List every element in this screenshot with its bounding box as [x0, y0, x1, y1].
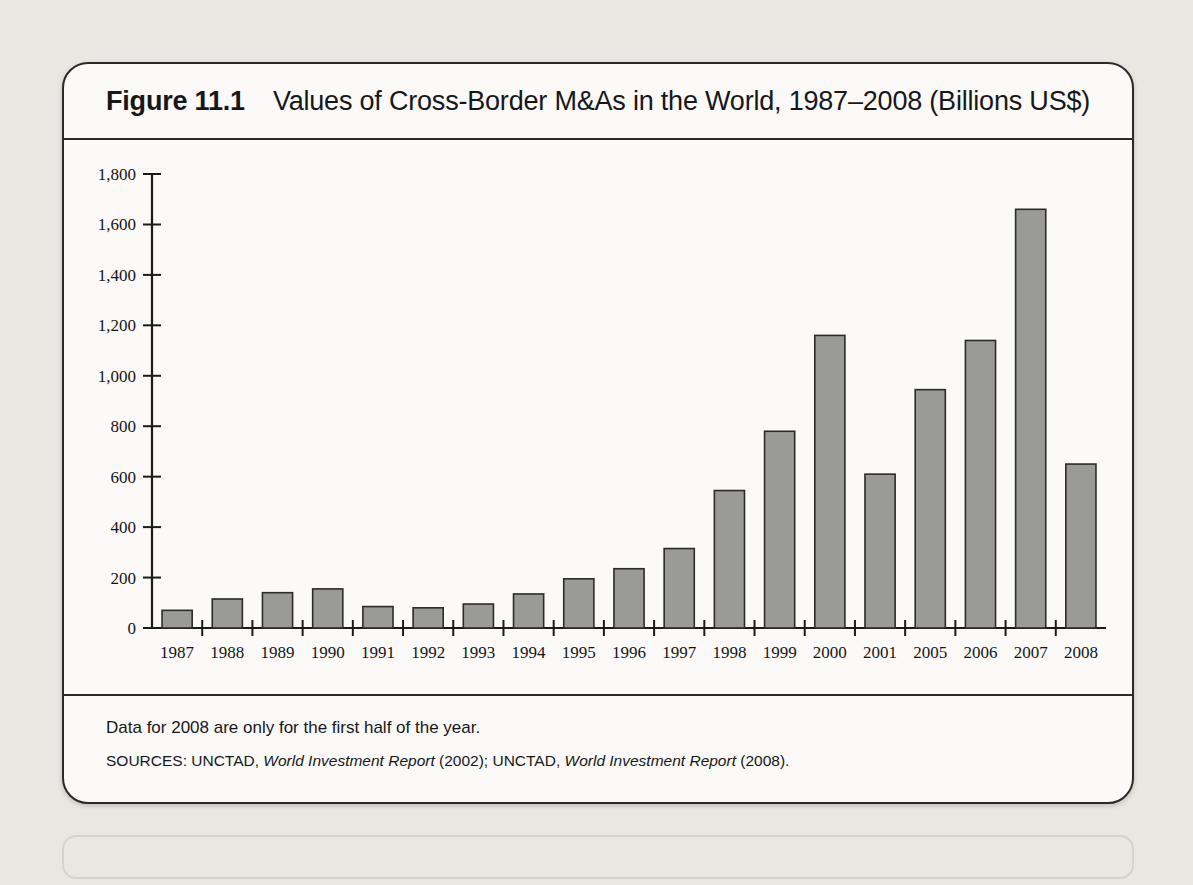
x-axis-tick-label: 2006 [963, 643, 997, 662]
sources-mid: (2002); UNCTAD, [435, 752, 565, 769]
x-axis-tick-label: 2008 [1064, 643, 1098, 662]
y-axis-tick-label: 1,800 [98, 165, 136, 184]
bar-1991[interactable] [363, 607, 393, 628]
bar-1992[interactable] [413, 608, 443, 628]
sources-italic-1: World Investment Report [263, 752, 434, 769]
chart-area: 02004006008001,0001,2001,4001,6001,80019… [64, 140, 1132, 694]
bar-2001[interactable] [865, 474, 895, 628]
x-axis-tick-label: 2000 [813, 643, 847, 662]
figure-number-label: Figure 11.1 [106, 86, 245, 117]
x-axis-tick-label: 1988 [210, 643, 244, 662]
figure-panel: Figure 11.1 Values of Cross-Border M&As … [62, 62, 1134, 804]
y-axis-tick-label: 400 [111, 518, 137, 537]
x-axis-tick-label: 1989 [261, 643, 295, 662]
x-axis-tick-label: 1998 [712, 643, 746, 662]
y-axis-tick-label: 800 [111, 417, 137, 436]
y-axis-tick-label: 0 [128, 619, 137, 638]
sources-italic-2: World Investment Report [565, 752, 736, 769]
bar-2007[interactable] [1016, 209, 1046, 628]
x-axis-tick-label: 1993 [461, 643, 495, 662]
x-axis-tick-label: 1991 [361, 643, 395, 662]
x-axis-tick-label: 1994 [512, 643, 547, 662]
figure-note: Data for 2008 are only for the first hal… [106, 718, 1090, 738]
bar-1988[interactable] [212, 599, 242, 628]
bar-1987[interactable] [162, 610, 192, 628]
y-axis-tick-label: 200 [111, 569, 137, 588]
x-axis-tick-label: 2007 [1014, 643, 1049, 662]
sources-suffix: (2008). [736, 752, 789, 769]
x-axis-tick-label: 1992 [411, 643, 445, 662]
bar-1996[interactable] [614, 569, 644, 628]
x-axis-tick-label: 1995 [562, 643, 596, 662]
x-axis-tick-label: 1990 [311, 643, 345, 662]
bar-2005[interactable] [915, 390, 945, 628]
bar-1998[interactable] [714, 491, 744, 628]
bar-2006[interactable] [965, 340, 995, 628]
sources-prefix: SOURCES: UNCTAD, [106, 752, 263, 769]
page-bottom-edge-decoration [62, 835, 1134, 879]
bar-1999[interactable] [765, 431, 795, 628]
bar-1997[interactable] [664, 549, 694, 628]
x-axis-tick-label: 2005 [913, 643, 947, 662]
y-axis-tick-label: 1,400 [98, 266, 136, 285]
figure-sources: SOURCES: UNCTAD, World Investment Report… [106, 752, 1090, 770]
bar-chart-plot: 02004006008001,0001,2001,4001,6001,80019… [64, 140, 1132, 694]
bar-2000[interactable] [815, 335, 845, 628]
bar-1993[interactable] [463, 604, 493, 628]
x-axis-tick-label: 1987 [160, 643, 195, 662]
bar-1989[interactable] [262, 593, 292, 628]
bar-2008[interactable] [1066, 464, 1096, 628]
x-axis-tick-label: 2001 [863, 643, 897, 662]
y-axis-tick-label: 600 [111, 468, 137, 487]
bar-1995[interactable] [564, 579, 594, 628]
bar-chart-svg: 02004006008001,0001,2001,4001,6001,80019… [64, 140, 1128, 694]
bar-1994[interactable] [514, 594, 544, 628]
figure-title-row: Figure 11.1 Values of Cross-Border M&As … [64, 64, 1132, 140]
figure-title-label: Values of Cross-Border M&As in the World… [273, 86, 1090, 117]
bar-1990[interactable] [313, 589, 343, 628]
x-axis-tick-label: 1996 [612, 643, 646, 662]
x-axis-tick-label: 1999 [763, 643, 797, 662]
figure-footer: Data for 2008 are only for the first hal… [64, 694, 1132, 802]
x-axis-tick-label: 1997 [662, 643, 697, 662]
y-axis-tick-label: 1,000 [98, 367, 136, 386]
y-axis-tick-label: 1,200 [98, 316, 136, 335]
y-axis-tick-label: 1,600 [98, 215, 136, 234]
